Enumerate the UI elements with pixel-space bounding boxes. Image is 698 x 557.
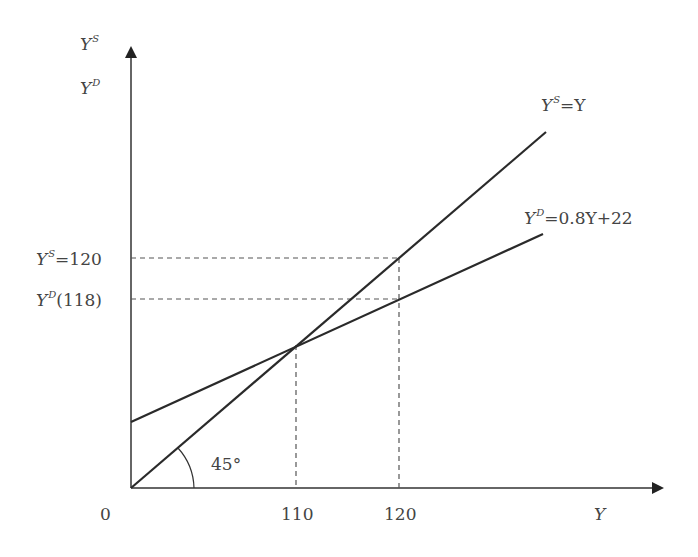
y-tick-label-yd-118: YD(118) bbox=[36, 290, 102, 309]
x-axis-label: Y bbox=[594, 506, 605, 523]
diagram-canvas bbox=[0, 0, 698, 557]
origin-label: 0 bbox=[100, 506, 111, 523]
demand-line bbox=[131, 234, 543, 422]
x-axis-arrow-icon bbox=[652, 482, 664, 494]
supply-line-label: YS=Y bbox=[541, 95, 586, 114]
x-tick-label-110: 110 bbox=[281, 506, 313, 523]
angle-arc bbox=[178, 448, 194, 488]
y-axis-label-demand: YD bbox=[80, 78, 100, 97]
x-tick-label-120: 120 bbox=[384, 506, 416, 523]
demand-line-label: YD=0.8Y+22 bbox=[524, 208, 633, 227]
y-tick-label-ys-120: YS=120 bbox=[36, 249, 102, 268]
angle-label: 45° bbox=[211, 456, 241, 473]
y-axis-arrow-icon bbox=[125, 46, 137, 58]
y-axis-label-supply: YS bbox=[80, 34, 99, 53]
supply-line bbox=[131, 132, 546, 488]
